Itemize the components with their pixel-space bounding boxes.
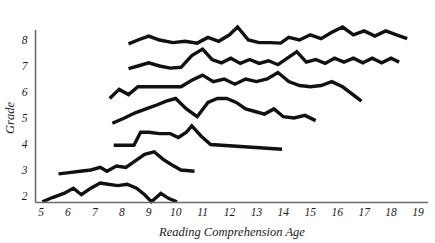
y-tick-label: 2 <box>22 190 28 202</box>
x-axis-title: Reading Comprehension Age <box>158 225 305 239</box>
y-tick-label: 3 <box>21 164 28 176</box>
series-line <box>129 49 400 69</box>
series-line <box>114 126 282 149</box>
y-axis-title: Grade <box>3 102 17 134</box>
x-tick-label: 9 <box>146 206 152 218</box>
x-tick-label: 10 <box>170 206 182 218</box>
series-line <box>110 73 362 102</box>
y-tick-label: 7 <box>22 60 29 72</box>
series-line <box>129 27 408 44</box>
series-layer <box>42 27 407 202</box>
x-tick-label: 18 <box>385 206 397 218</box>
y-tick-labels: 2345678 <box>21 34 29 202</box>
series-line <box>42 183 177 202</box>
x-tick-label: 6 <box>65 206 71 218</box>
x-tick-labels: 5678910111213141516171819 <box>38 206 424 218</box>
chart-container: 5678910111213141516171819 2345678 Readin… <box>0 0 435 243</box>
x-tick-label: 5 <box>38 206 44 218</box>
x-tick-label: 7 <box>92 206 99 218</box>
x-tick-label: 16 <box>331 206 343 218</box>
series-line <box>59 152 195 174</box>
x-tick-label: 15 <box>305 206 317 218</box>
x-tick-label: 8 <box>119 206 125 218</box>
x-tick-label: 14 <box>278 206 290 218</box>
line-chart: 5678910111213141516171819 2345678 Readin… <box>0 0 435 243</box>
y-tick-label: 8 <box>22 34 28 46</box>
x-tick-label: 13 <box>251 206 263 218</box>
x-tick-label: 11 <box>197 206 208 218</box>
y-tick-label: 5 <box>22 112 28 124</box>
x-tick-label: 17 <box>358 206 371 218</box>
y-tick-label: 6 <box>22 86 28 98</box>
axis-layer <box>36 30 429 203</box>
x-tick-label: 19 <box>412 206 424 218</box>
y-tick-label: 4 <box>22 138 28 150</box>
x-tick-label: 12 <box>224 206 236 218</box>
series-line <box>112 99 315 124</box>
